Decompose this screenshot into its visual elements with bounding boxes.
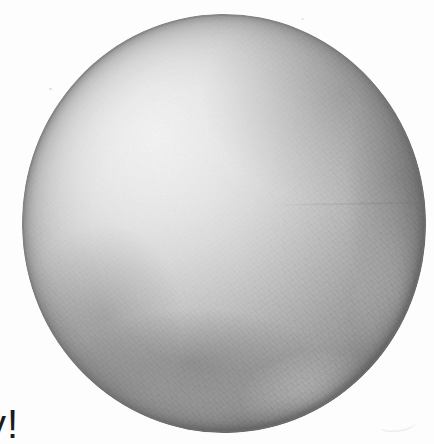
pencil-speck [301, 18, 304, 20]
drawing-canvas: y! [0, 0, 434, 444]
sphere-drawing [18, 11, 429, 437]
caption-text-fragment: y! [0, 404, 19, 444]
pencil-speck [49, 88, 52, 90]
